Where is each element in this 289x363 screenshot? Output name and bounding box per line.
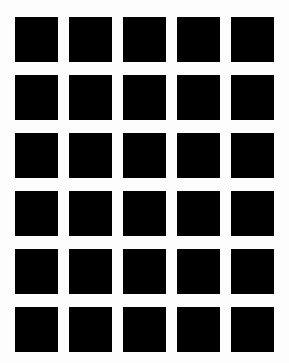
black-square — [231, 307, 274, 352]
black-square — [123, 75, 166, 120]
black-square — [69, 133, 112, 178]
black-square — [15, 307, 58, 352]
black-square — [69, 307, 112, 352]
black-square — [177, 133, 220, 178]
black-square — [231, 133, 274, 178]
black-square — [177, 249, 220, 294]
black-square — [15, 249, 58, 294]
black-square — [231, 249, 274, 294]
black-square — [69, 17, 112, 62]
black-square — [123, 249, 166, 294]
black-square — [177, 191, 220, 236]
black-square — [69, 249, 112, 294]
black-square — [69, 75, 112, 120]
black-square — [177, 307, 220, 352]
black-square — [123, 191, 166, 236]
black-square — [15, 17, 58, 62]
black-square — [123, 133, 166, 178]
black-square — [15, 191, 58, 236]
black-square — [231, 17, 274, 62]
black-square — [177, 17, 220, 62]
black-square — [69, 191, 112, 236]
black-square — [177, 75, 220, 120]
black-square — [231, 191, 274, 236]
black-square — [231, 75, 274, 120]
black-square — [15, 133, 58, 178]
black-square — [123, 307, 166, 352]
black-square — [123, 17, 166, 62]
black-square — [15, 75, 58, 120]
square-grid — [15, 17, 274, 352]
